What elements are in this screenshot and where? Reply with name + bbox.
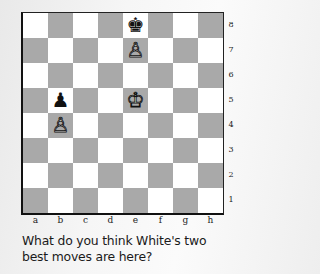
rank-label-2: 2	[226, 162, 236, 187]
rank-label-7: 7	[226, 37, 236, 62]
rank-label-1: 1	[226, 187, 236, 212]
rank-label-8: 8	[226, 12, 236, 37]
square-f2	[148, 163, 173, 188]
square-a1	[23, 188, 48, 213]
question-caption: What do you think White's two best moves…	[22, 233, 242, 265]
square-d7	[98, 38, 123, 63]
square-c7	[73, 38, 98, 63]
square-e3	[123, 138, 148, 163]
square-d5	[98, 88, 123, 113]
square-c3	[73, 138, 98, 163]
rank-label-5: 5	[226, 87, 236, 112]
square-e6	[123, 63, 148, 88]
square-a3	[23, 138, 48, 163]
square-e4	[123, 113, 148, 138]
rank-label-6: 6	[226, 62, 236, 87]
square-a4	[23, 113, 48, 138]
square-a7	[23, 38, 48, 63]
square-b4: ♙	[48, 113, 73, 138]
white-pawn-icon: ♙	[52, 113, 70, 138]
square-c4	[73, 113, 98, 138]
square-e2	[123, 163, 148, 188]
square-h5	[198, 88, 223, 113]
square-d1	[98, 188, 123, 213]
square-a6	[23, 63, 48, 88]
file-label-b: b	[48, 215, 73, 225]
square-e5: ♔	[123, 88, 148, 113]
black-king-icon: ♚	[127, 13, 145, 38]
white-pawn-icon: ♙	[127, 38, 145, 63]
square-e1	[123, 188, 148, 213]
square-c5	[73, 88, 98, 113]
square-h4	[198, 113, 223, 138]
square-b3	[48, 138, 73, 163]
square-e7: ♙	[123, 38, 148, 63]
chess-board: ♚♙♟♔♙	[21, 12, 224, 215]
square-e8: ♚	[123, 13, 148, 38]
square-g2	[173, 163, 198, 188]
square-d8	[98, 13, 123, 38]
square-f6	[148, 63, 173, 88]
square-c6	[73, 63, 98, 88]
square-d4	[98, 113, 123, 138]
square-f1	[148, 188, 173, 213]
file-label-f: f	[148, 215, 173, 225]
caption-line-2: best moves are here?	[22, 249, 242, 265]
black-pawn-icon: ♟	[52, 88, 70, 113]
square-b6	[48, 63, 73, 88]
file-label-e: e	[123, 215, 148, 225]
square-c2	[73, 163, 98, 188]
square-d2	[98, 163, 123, 188]
square-g5	[173, 88, 198, 113]
square-b1	[48, 188, 73, 213]
square-b8	[48, 13, 73, 38]
rank-label-3: 3	[226, 137, 236, 162]
square-b2	[48, 163, 73, 188]
square-f8	[148, 13, 173, 38]
square-h6	[198, 63, 223, 88]
square-d6	[98, 63, 123, 88]
square-h7	[198, 38, 223, 63]
square-f5	[148, 88, 173, 113]
rank-label-4: 4	[226, 112, 236, 137]
square-g3	[173, 138, 198, 163]
square-h8	[198, 13, 223, 38]
square-c8	[73, 13, 98, 38]
square-b7	[48, 38, 73, 63]
square-g4	[173, 113, 198, 138]
square-f7	[148, 38, 173, 63]
square-a5	[23, 88, 48, 113]
square-h3	[198, 138, 223, 163]
file-label-h: h	[198, 215, 223, 225]
square-d3	[98, 138, 123, 163]
file-label-d: d	[98, 215, 123, 225]
square-h2	[198, 163, 223, 188]
square-g7	[173, 38, 198, 63]
square-f4	[148, 113, 173, 138]
square-c1	[73, 188, 98, 213]
square-a2	[23, 163, 48, 188]
file-label-a: a	[23, 215, 48, 225]
caption-line-1: What do you think White's two	[22, 233, 242, 249]
square-h1	[198, 188, 223, 213]
square-b5: ♟	[48, 88, 73, 113]
file-label-g: g	[173, 215, 198, 225]
square-g6	[173, 63, 198, 88]
file-label-c: c	[73, 215, 98, 225]
square-g8	[173, 13, 198, 38]
square-g1	[173, 188, 198, 213]
square-a8	[23, 13, 48, 38]
white-king-icon: ♔	[127, 88, 145, 113]
square-f3	[148, 138, 173, 163]
